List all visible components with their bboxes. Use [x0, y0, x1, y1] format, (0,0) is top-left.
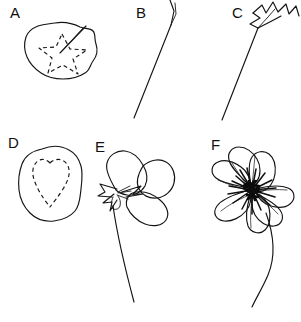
panel-e-letter: E	[95, 138, 105, 155]
figure-root: A B C	[0, 0, 301, 322]
panel-f-letter: F	[211, 136, 220, 153]
panel-c-letter: C	[232, 4, 243, 21]
panel-b-letter: B	[136, 4, 146, 21]
panel-a-letter: A	[10, 4, 20, 21]
panel-d-letter: D	[8, 134, 19, 151]
flower-development-figure: A B C	[0, 0, 301, 322]
